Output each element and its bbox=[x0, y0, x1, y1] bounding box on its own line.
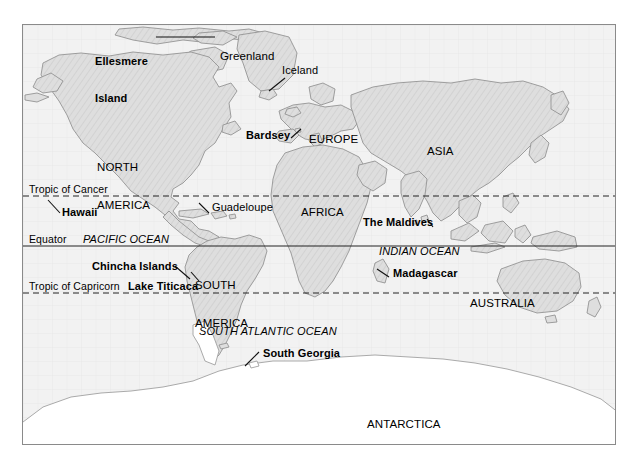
ellesmere-island-label-line1: Ellesmere bbox=[95, 55, 148, 67]
chincha-islands-label: Chincha Islands bbox=[92, 261, 178, 273]
south-america-label-line1: SOUTH bbox=[195, 279, 248, 292]
land-tasmania bbox=[545, 315, 557, 323]
the-maldives-label: The Maldives bbox=[363, 217, 433, 229]
hawaii-label: Hawaii bbox=[62, 207, 97, 219]
asia-label: ASIA bbox=[427, 145, 454, 157]
tropic-of-capricorn-label: Tropic of Capricorn bbox=[29, 281, 120, 292]
greenland-label: Greenland bbox=[220, 50, 275, 62]
south-america-label: SOUTH AMERICA bbox=[195, 253, 248, 356]
world-map-figure: Tropic of Cancer Equator Tropic of Capri… bbox=[0, 0, 628, 471]
africa-label: AFRICA bbox=[301, 206, 344, 218]
equator-label: Equator bbox=[29, 234, 66, 245]
north-america-label-line2: AMERICA bbox=[97, 199, 150, 212]
north-america-label-line1: NORTH bbox=[97, 161, 150, 174]
bardsey-label: Bardsey bbox=[246, 130, 290, 142]
guadeloupe-label: Guadeloupe bbox=[212, 202, 273, 214]
australia-label: AUSTRALIA bbox=[470, 297, 535, 309]
land-guadeloupe-island bbox=[229, 214, 236, 219]
south-georgia-label: South Georgia bbox=[263, 348, 340, 360]
ellesmere-island-label-line2: Island bbox=[95, 92, 148, 104]
europe-label: EUROPE bbox=[309, 133, 358, 145]
south-america-label-line2: AMERICA bbox=[195, 317, 248, 330]
ellesmere-island-label: Ellesmere Island bbox=[95, 30, 148, 129]
north-america-label: NORTH AMERICA bbox=[97, 135, 150, 238]
antarctica-label: ANTARCTICA bbox=[367, 418, 441, 430]
iceland-label: Iceland bbox=[282, 65, 318, 77]
map-frame: Tropic of Cancer Equator Tropic of Capri… bbox=[22, 24, 616, 445]
lake-titicaca-label: Lake Titicaca bbox=[128, 281, 198, 293]
madagascar-label: Madagascar bbox=[393, 268, 458, 280]
indian-ocean-label: INDIAN OCEAN bbox=[379, 246, 460, 258]
tropic-of-cancer-label: Tropic of Cancer bbox=[29, 184, 108, 195]
